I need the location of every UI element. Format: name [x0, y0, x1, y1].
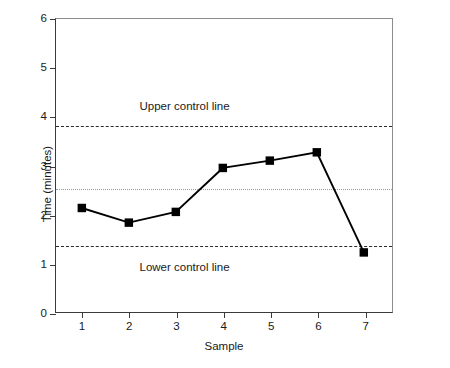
x-tick	[318, 312, 319, 318]
x-tick-label: 3	[173, 321, 179, 333]
plot-area: 0123456 1234567 Upper control lineLower …	[55, 18, 393, 313]
x-tick	[177, 312, 178, 318]
data-point-marker	[172, 208, 180, 216]
x-tick-label: 5	[268, 321, 274, 333]
y-tick-label: 0	[41, 308, 47, 320]
y-tick	[50, 314, 56, 315]
data-series	[56, 19, 392, 312]
data-point-marker	[313, 148, 321, 156]
x-tick-label: 4	[221, 321, 227, 333]
y-tick-label: 4	[41, 112, 47, 124]
y-tick-label: 3	[41, 161, 47, 173]
y-tick-label: 5	[41, 62, 47, 74]
x-tick-label: 7	[362, 321, 368, 333]
control-chart: Time (minutes) 0123456 1234567 Upper con…	[0, 0, 450, 368]
x-tick	[224, 312, 225, 318]
y-tick-label: 1	[41, 259, 47, 271]
data-point-marker	[360, 248, 368, 256]
data-point-marker	[266, 156, 274, 164]
y-tick-label: 2	[41, 210, 47, 222]
x-tick	[129, 312, 130, 318]
x-tick	[366, 312, 367, 318]
x-tick-label: 2	[126, 321, 132, 333]
x-tick-label: 6	[315, 321, 321, 333]
data-point-marker	[78, 204, 86, 212]
x-axis-title: Sample	[55, 340, 393, 352]
y-tick-label: 6	[41, 13, 47, 25]
x-tick	[82, 312, 83, 318]
x-tick-label: 1	[79, 321, 85, 333]
data-point-marker	[219, 164, 227, 172]
x-tick	[271, 312, 272, 318]
data-point-marker	[125, 218, 133, 226]
